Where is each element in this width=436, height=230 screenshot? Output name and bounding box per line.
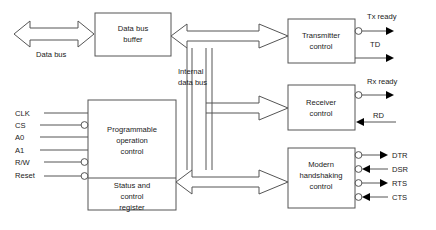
programmable-operation-control-line-2: operation xyxy=(116,136,148,145)
pin-dtr-arrowhead xyxy=(380,151,388,159)
pin-rts-arrowhead xyxy=(380,179,388,187)
pin-td-arrowhead xyxy=(386,54,394,62)
pin-cts-label: CTS xyxy=(392,193,407,202)
pin-tx-ready-inversion-bubble xyxy=(355,28,362,35)
pin-rx-ready: Rx ready xyxy=(355,77,397,99)
internal-data-bus-label-line-2: data bus xyxy=(178,78,207,87)
internal-data-bus-bottom xyxy=(176,170,288,194)
pin-dsr-label: DSR xyxy=(392,165,409,174)
external-data-bus-arrow xyxy=(14,21,94,47)
pin-rd-arrowhead xyxy=(356,118,364,126)
pin-rx-ready-inversion-bubble xyxy=(355,92,362,99)
block-modem-handshaking-control: Modern handshaking control xyxy=(288,148,355,208)
pin-tx-ready-label: Tx ready xyxy=(367,12,397,21)
modem-handshaking-control-line-3: control xyxy=(310,182,333,191)
pin-rts-inversion-bubble xyxy=(355,180,362,187)
status-and-control-register-line-2: control xyxy=(121,192,144,201)
pin-a0: A0 xyxy=(15,133,88,142)
receiver-control-line-1: Receiver xyxy=(306,98,336,107)
transmitter-control-line-1: Transmitter xyxy=(302,31,341,40)
pin-td-label: TD xyxy=(370,40,381,49)
internal-data-bus-label-line-1: Internal xyxy=(178,67,204,76)
data-bus-buffer-line-1: Data bus xyxy=(118,24,149,33)
external-data-bus-label: Data bus xyxy=(36,50,67,59)
pin-rx-ready-label: Rx ready xyxy=(367,77,398,86)
pin-rw-label: R/W xyxy=(15,158,31,167)
pin-dtr-inversion-bubble xyxy=(355,152,362,159)
pin-dsr: DSR xyxy=(355,165,408,174)
pin-rw-inversion-bubble xyxy=(81,159,88,166)
pin-a0-label: A0 xyxy=(15,133,24,142)
pin-cs-label: CS xyxy=(15,121,26,130)
block-diagram: Data bus Data bus buffer Internal data b… xyxy=(0,0,436,230)
receiver-control-line-2: control xyxy=(310,109,333,118)
pin-tx-ready-arrowhead xyxy=(386,27,394,35)
data-bus-buffer-line-2: buffer xyxy=(123,35,143,44)
pin-rw: R/W xyxy=(15,158,88,167)
pin-cts-inversion-bubble xyxy=(355,194,362,201)
pin-tx-ready: Tx ready xyxy=(355,12,397,35)
pin-clk-label: CLK xyxy=(15,109,30,118)
pin-cts: CTS xyxy=(355,193,407,202)
programmable-operation-control-line-1: Programmable xyxy=(107,125,157,134)
programmable-operation-control-line-3: control xyxy=(121,147,144,156)
pin-dtr-label: DTR xyxy=(392,151,408,160)
pin-rd: RD xyxy=(356,111,396,126)
internal-data-bus-top xyxy=(171,24,288,48)
pin-a1-label: A1 xyxy=(15,146,24,155)
pin-dtr: DTR xyxy=(355,151,408,160)
block-receiver-control: Receiver control xyxy=(288,85,355,130)
pin-a1: A1 xyxy=(15,146,88,155)
status-and-control-register-line-1: Status and xyxy=(114,181,150,190)
pin-reset-label: Reset xyxy=(15,171,36,180)
pin-rts: RTS xyxy=(355,179,407,188)
block-transmitter-control: Transmitter control xyxy=(288,19,355,63)
modem-handshaking-control-line-1: Modern xyxy=(308,160,334,169)
status-and-control-register-line-3: register xyxy=(119,203,145,212)
pin-td: TD xyxy=(355,40,394,62)
pin-dsr-inversion-bubble xyxy=(355,166,362,173)
pin-cts-arrowhead xyxy=(362,193,370,201)
pin-reset: Reset xyxy=(15,171,88,180)
pin-cs-inversion-bubble xyxy=(81,122,88,129)
modem-handshaking-control-line-2: handshaking xyxy=(299,171,342,180)
pin-rts-label: RTS xyxy=(392,179,407,188)
pin-rd-label: RD xyxy=(373,111,384,120)
block-data-bus-buffer: Data bus buffer xyxy=(95,13,171,56)
pin-reset-inversion-bubble xyxy=(81,173,88,180)
pin-cs: CS xyxy=(15,121,88,130)
pin-rx-ready-arrowhead xyxy=(386,91,394,99)
pin-clk: CLK xyxy=(15,109,88,118)
internal-data-bus-receiver-branch xyxy=(206,96,288,120)
transmitter-control-line-2: control xyxy=(310,42,333,51)
pin-dsr-arrowhead xyxy=(362,165,370,173)
